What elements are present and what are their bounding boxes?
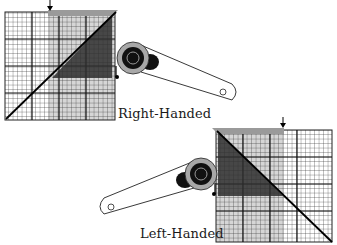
arrow-down-icon	[47, 0, 53, 11]
ruler-top-edge	[212, 128, 284, 134]
rotary-cutter-diagram	[0, 0, 337, 245]
arrow-down-icon	[280, 117, 286, 128]
left-handed-panel	[100, 117, 332, 242]
ruler-top-edge	[48, 10, 118, 16]
left-handed-label: Left-Handed	[140, 226, 224, 241]
right-handed-panel	[5, 0, 236, 120]
rotary-cutter-icon	[100, 158, 217, 214]
right-handed-label: Right-Handed	[118, 106, 211, 121]
rotary-cutter-icon	[115, 42, 236, 100]
